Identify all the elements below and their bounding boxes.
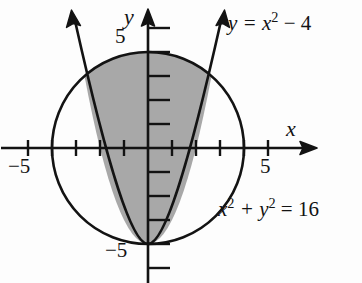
circle-eq-suffix: = 16: [276, 197, 319, 221]
y-tick-label-5: 5: [115, 26, 126, 47]
math-figure: y = x2 − 4 x2 + y2 = 16 y x 5 −5 5 −5: [0, 0, 362, 283]
circle-equation-label: x2 + y2 = 16: [218, 196, 319, 220]
circle-eq-middle: + y: [234, 197, 268, 221]
circle-eq-prefix: x: [218, 197, 227, 221]
x-axis-label: x: [286, 118, 296, 140]
x-tick-label-5: 5: [260, 156, 271, 177]
graph-canvas: [0, 0, 362, 283]
parabola-equation-label: y = x2 − 4: [228, 10, 311, 34]
parabola-eq-suffix: − 4: [278, 11, 311, 35]
parabola-eq-prefix: y = x: [228, 11, 271, 35]
circle-eq-exponent-2: 2: [268, 195, 275, 211]
x-tick-label-minus5: −5: [8, 156, 30, 177]
y-tick-label-minus5: −5: [105, 240, 127, 261]
